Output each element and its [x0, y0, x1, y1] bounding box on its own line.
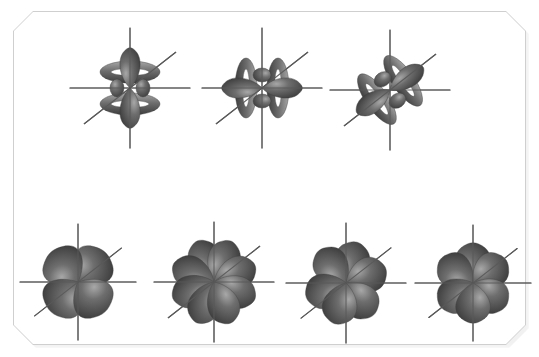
orbital-fz3	[60, 22, 200, 154]
axes-cross-overlay	[20, 224, 136, 340]
axes-cross-overlay	[286, 223, 406, 343]
orbital-fy3	[318, 22, 463, 158]
axes-cross-overlay	[154, 222, 274, 342]
orbital-fy-z2-x2	[412, 222, 534, 344]
orbital-fx3	[192, 22, 332, 154]
orbital-fx-z2-y2	[285, 222, 407, 344]
axes-cross-overlay	[202, 28, 322, 148]
axes-cross-overlay	[70, 28, 190, 148]
figure-canvas	[0, 0, 539, 357]
axes-cross-overlay	[415, 225, 531, 341]
axes-cross-overlay	[330, 30, 450, 150]
orbital-fxyz	[18, 222, 138, 342]
orbital-fz-x2-y2	[152, 220, 277, 344]
